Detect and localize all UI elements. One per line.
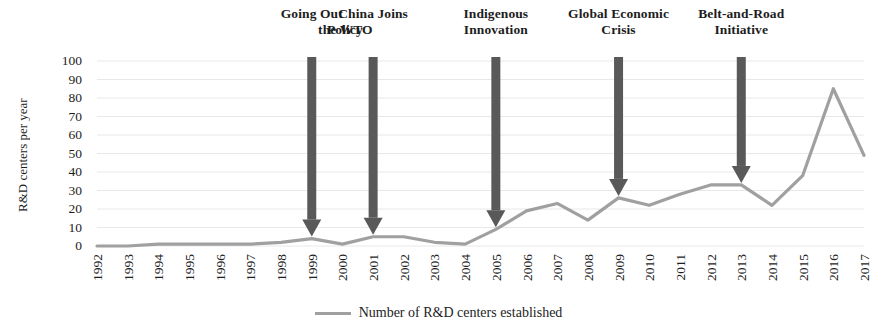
x-axis-tick-label: 1997 bbox=[243, 254, 259, 281]
x-axis-tick-label: 1996 bbox=[213, 254, 229, 281]
x-axis-tick-label: 2017 bbox=[857, 254, 873, 281]
x-axis-tick-labels: 1992199319941995199619971998199920002001… bbox=[0, 0, 877, 336]
x-axis-tick-label: 2010 bbox=[642, 254, 658, 281]
x-axis-tick-label: 2005 bbox=[489, 254, 505, 281]
chart-container: R&D centers per year 0102030405060708090… bbox=[0, 0, 877, 336]
x-axis-tick-label: 2015 bbox=[796, 254, 812, 281]
x-axis-tick-label: 2000 bbox=[335, 254, 351, 281]
x-axis-tick-label: 2011 bbox=[673, 254, 689, 281]
legend-label: Number of R&D centers established bbox=[359, 305, 563, 321]
x-axis-tick-label: 1999 bbox=[305, 254, 321, 281]
x-axis-tick-label: 2013 bbox=[734, 254, 750, 281]
x-axis-tick-label: 2008 bbox=[581, 254, 597, 281]
x-axis-tick-label: 2009 bbox=[612, 254, 628, 281]
x-axis-tick-label: 2012 bbox=[704, 254, 720, 281]
x-axis-tick-label: 2003 bbox=[427, 254, 443, 281]
x-axis-tick-label: 1994 bbox=[151, 254, 167, 281]
chart-legend: Number of R&D centers established bbox=[0, 305, 877, 321]
x-axis-tick-label: 1993 bbox=[121, 254, 137, 281]
x-axis-tick-label: 2002 bbox=[397, 254, 413, 281]
x-axis-tick-label: 2014 bbox=[765, 254, 781, 281]
x-axis-tick-label: 1995 bbox=[182, 254, 198, 281]
x-axis-tick-label: 2016 bbox=[826, 254, 842, 281]
x-axis-tick-label: 1998 bbox=[274, 254, 290, 281]
legend-line-swatch bbox=[315, 312, 351, 315]
x-axis-tick-label: 1992 bbox=[90, 254, 106, 281]
x-axis-tick-label: 2007 bbox=[550, 254, 566, 281]
x-axis-tick-label: 2001 bbox=[366, 254, 382, 281]
x-axis-tick-label: 2004 bbox=[458, 254, 474, 281]
x-axis-tick-label: 2006 bbox=[520, 254, 536, 281]
